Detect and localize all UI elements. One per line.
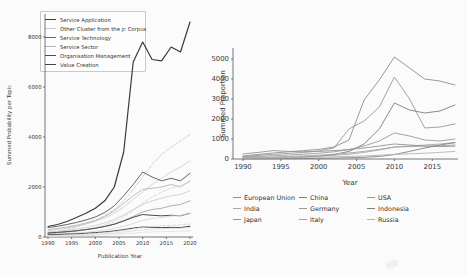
legend-line-sample-icon xyxy=(299,197,307,198)
topics-x-tick-label: 2005 xyxy=(112,240,125,246)
topics-x-tick-label: 1990 xyxy=(41,240,55,246)
legend-label: Indonesia xyxy=(378,205,409,213)
legend-line-sample-icon xyxy=(233,219,241,220)
countries-series-china xyxy=(243,103,455,158)
legend-label: European Union xyxy=(244,194,295,202)
topics-x-tick-label: 2000 xyxy=(89,240,103,246)
countries-legend-item-china: China xyxy=(299,194,367,202)
legend-label: Germany xyxy=(310,205,339,213)
topics-y-tick-label: 0 xyxy=(38,234,42,240)
left-y-axis-title: Summed Probability per Topic xyxy=(6,85,12,165)
left-x-axis-title: Publication Year xyxy=(60,253,180,259)
countries-legend-item-usa: USA xyxy=(367,194,443,202)
legend-label: China xyxy=(310,194,328,202)
countries-legend-item-germany: Germany xyxy=(299,205,367,213)
topics-x-tick-label: 2010 xyxy=(136,240,150,246)
countries-series-european-union xyxy=(243,57,455,156)
topics-y-tick-label: 8000 xyxy=(28,34,42,40)
countries-legend-item-italy: Italy xyxy=(299,216,367,224)
right-y-axis-title: Summed Proportion xyxy=(219,64,227,144)
topics-x-tick-label: 1995 xyxy=(65,240,78,246)
topics-x-tick-label: 2015 xyxy=(160,240,173,246)
legend-label: India xyxy=(244,205,260,213)
topics-series-service-application xyxy=(48,22,190,227)
legend-line-sample-icon xyxy=(233,208,241,209)
countries-x-tick-label: 2000 xyxy=(310,163,328,171)
countries-x-tick-label: 1990 xyxy=(234,163,252,171)
legend-line-sample-icon xyxy=(299,208,307,209)
legend-label: Italy xyxy=(310,216,324,224)
charts-canvas: 0200040006000800019901995200020052010201… xyxy=(0,0,467,276)
countries-legend-item-russia: Russia xyxy=(367,216,443,224)
topics-x-tick-label: 2020 xyxy=(183,240,197,246)
legend-label: Japan xyxy=(244,216,262,224)
legend-line-sample-icon xyxy=(367,197,375,198)
legend-label: USA xyxy=(378,194,391,202)
right-chart-legend: European UnionChinaUSAIndiaGermanyIndone… xyxy=(233,192,443,225)
figure: Service ApplicationOther Cluster from th… xyxy=(0,0,467,276)
countries-legend-item-japan: Japan xyxy=(233,216,299,224)
countries-x-tick-label: 2005 xyxy=(348,163,366,171)
countries-x-tick-label: 2015 xyxy=(424,163,442,171)
countries-y-tick-label: 5000 xyxy=(211,55,229,63)
topics-y-tick-label: 6000 xyxy=(28,84,42,90)
legend-label: Russia xyxy=(378,216,399,224)
legend-line-sample-icon xyxy=(367,208,375,209)
legend-line-sample-icon xyxy=(367,219,375,220)
topics-y-tick-label: 2000 xyxy=(28,184,42,190)
countries-legend-item-european-union: European Union xyxy=(233,194,299,202)
countries-y-tick-label: 0 xyxy=(225,155,229,163)
legend-line-sample-icon xyxy=(299,219,307,220)
legend-line-sample-icon xyxy=(233,197,241,198)
countries-legend-item-india: India xyxy=(233,205,299,213)
countries-x-tick-label: 1995 xyxy=(272,163,290,171)
topics-series-other-cluster-from-the-jc-corpus-a- xyxy=(48,135,190,234)
right-x-axis-title: Year xyxy=(300,178,400,187)
countries-legend-item-indonesia: Indonesia xyxy=(367,205,443,213)
countries-x-tick-label: 2010 xyxy=(386,163,404,171)
topics-y-tick-label: 4000 xyxy=(28,134,42,140)
